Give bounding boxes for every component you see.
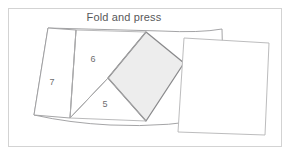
top-white-sheet (178, 38, 269, 135)
panel-7-shape (34, 28, 76, 118)
paper-folding-diagram: 7 6 5 Fold and press (0, 0, 291, 158)
figure-caption: Fold and press (87, 11, 162, 23)
figure-root: 7 6 5 Fold and press (0, 0, 291, 158)
panel-label-7: 7 (49, 77, 54, 87)
panel-label-5: 5 (102, 99, 107, 109)
panel-label-6: 6 (90, 54, 95, 64)
